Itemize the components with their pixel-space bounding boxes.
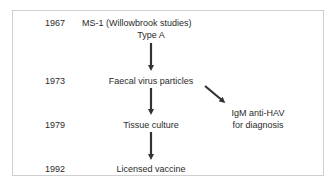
- arrows-layer: [0, 0, 332, 192]
- arrow-faecal-to-igm: [205, 86, 223, 101]
